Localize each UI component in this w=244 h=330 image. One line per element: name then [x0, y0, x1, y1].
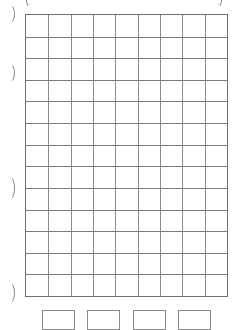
left-bracket-3	[4, 176, 15, 200]
top-left-bracket	[26, 0, 40, 8]
grid-column-line	[182, 15, 183, 296]
grid-column-line	[71, 15, 72, 296]
grid-column-line	[48, 15, 49, 296]
grid-row-line	[26, 58, 227, 59]
answer-box-4	[178, 310, 211, 330]
top-right-bracket	[208, 0, 222, 8]
grid-row-line	[26, 253, 227, 254]
left-bracket-4	[4, 282, 15, 304]
grid-row-line	[26, 188, 227, 189]
grid-column-line	[160, 15, 161, 296]
answer-box-3	[133, 310, 166, 330]
grid-column-line	[115, 15, 116, 296]
grid-row-line	[26, 101, 227, 102]
grid-row-line	[26, 166, 227, 167]
grid-row-line	[26, 274, 227, 275]
grid-row-line	[26, 80, 227, 81]
grid-row-line	[26, 37, 227, 38]
grid-row-line	[26, 123, 227, 124]
grid-column-line	[205, 15, 206, 296]
answer-box-1	[42, 310, 75, 330]
grid-row-line	[26, 210, 227, 211]
grid-row-line	[26, 231, 227, 232]
grid-column-line	[138, 15, 139, 296]
answer-box-2	[87, 310, 120, 330]
grid-column-line	[93, 15, 94, 296]
graph-paper-grid	[25, 14, 228, 297]
left-bracket-2	[4, 63, 15, 83]
grid-row-line	[26, 145, 227, 146]
left-bracket-1	[4, 4, 15, 24]
